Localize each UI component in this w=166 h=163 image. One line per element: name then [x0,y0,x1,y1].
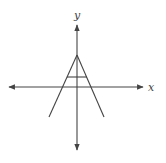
left-line [49,55,77,117]
graph-diagram: x y [0,0,166,163]
y-axis-label: y [73,9,81,22]
x-axis-label: x [148,81,155,94]
right-line [77,55,104,117]
